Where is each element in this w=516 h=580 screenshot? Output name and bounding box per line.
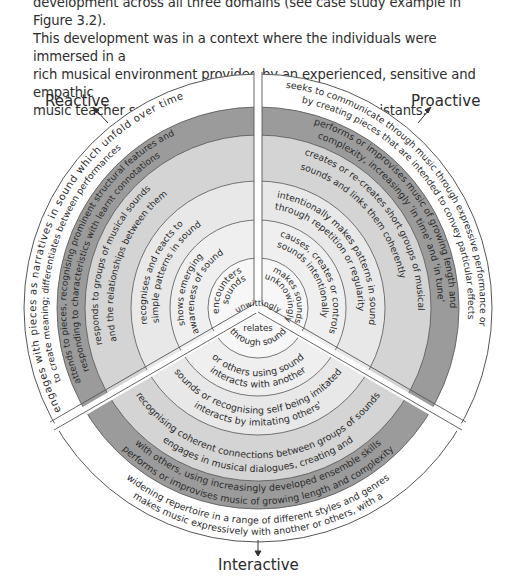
domain-label-proactive: Proactive (411, 92, 480, 110)
reactive-arrow-icon (96, 110, 108, 123)
interactive-level-1-line2: relates (243, 323, 273, 333)
domain-label-reactive: Reactive (45, 92, 110, 110)
domain-label-interactive: Interactive (218, 556, 299, 574)
sounds-of-intent-wheel: engages with pieces as narratives in sou… (0, 0, 516, 580)
proactive-arrow-icon (418, 111, 428, 123)
